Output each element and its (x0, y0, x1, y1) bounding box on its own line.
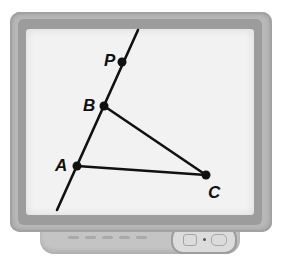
label-B: B (83, 96, 95, 115)
point-P (118, 58, 127, 67)
segment-BC (104, 106, 206, 175)
label-P: P (104, 51, 116, 70)
geometry-figure: P B A C (0, 0, 282, 265)
segment-AC (77, 166, 206, 175)
label-C: C (208, 183, 221, 202)
label-A: A (54, 156, 67, 175)
point-A (73, 162, 82, 171)
point-C (202, 171, 211, 180)
point-B (100, 102, 109, 111)
